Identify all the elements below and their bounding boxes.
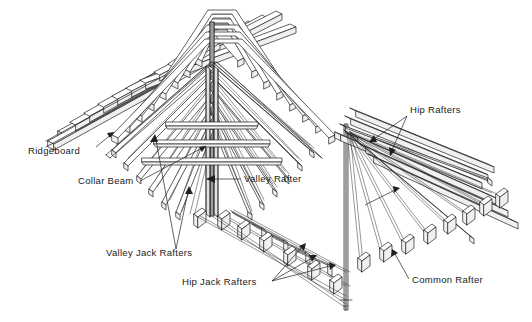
label-valley-jack-rafters: Valley Jack Rafters bbox=[106, 247, 192, 258]
label-ridgeboard: Ridgeboard bbox=[28, 145, 80, 156]
roof-framing-diagram: Ridgeboard Collar Beam Valley Rafter Val… bbox=[0, 0, 532, 322]
label-collar-beam: Collar Beam bbox=[78, 175, 134, 186]
label-hip-rafters: Hip Rafters bbox=[410, 104, 461, 115]
label-valley-rafter: Valley Rafter bbox=[244, 173, 302, 184]
label-hip-jack-rafters: Hip Jack Rafters bbox=[182, 276, 257, 287]
valley-bottom-lines bbox=[196, 216, 352, 308]
label-common-rafter: Common Rafter bbox=[412, 274, 483, 285]
roof-framing-illustration: Ridgeboard Collar Beam Valley Rafter Val… bbox=[0, 0, 532, 322]
